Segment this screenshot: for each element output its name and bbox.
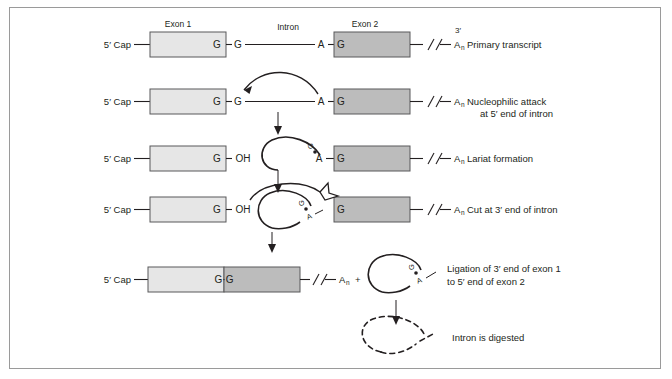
lariat-g-row3: G (306, 143, 315, 149)
step-label-cut-at-three-prime: Cut at 3′ end of intron (467, 204, 558, 215)
released-branch-point-dot (414, 271, 418, 275)
cap-label-row5: 5′ Cap (104, 274, 131, 285)
exon1-g-row2: G (213, 96, 221, 107)
cap-label-row1: 5′ Cap (104, 39, 131, 50)
ligation-arrow-curve-row4 (250, 184, 320, 200)
break-mark-a-row4 (428, 204, 434, 215)
lariat-g-row4: G (297, 200, 306, 206)
branch-a-row4: A (305, 212, 313, 222)
digested-lariat-loop (362, 316, 424, 352)
step-label-ligation-line2: to 5′ end of exon 2 (447, 276, 525, 287)
row-lariat-formation: 5′ Cap G OH G A G A n Lariat formation (104, 137, 533, 193)
progress-arrow-head-1 (274, 126, 282, 135)
product-bases: G·G (215, 274, 234, 285)
step-label-lariat-formation: Lariat formation (467, 153, 533, 164)
polya-row3: A (454, 153, 461, 164)
row-intron-digested: Intron is digested (362, 316, 524, 353)
ligation-arrow-head-row4 (320, 183, 338, 200)
polya-sub-row2: n (461, 101, 465, 108)
exon2-g-row3: G (337, 153, 345, 164)
row-primary-transcript: 5′ Cap Exon 1 G G Intron A Exon 2 G 3′ A… (104, 19, 542, 57)
released-lariat-cut-end (426, 272, 436, 278)
branch-a-row3: A (316, 153, 323, 164)
exon2-box-row1 (334, 32, 410, 57)
exon2-g-row2: G (337, 96, 345, 107)
progress-arrow-head-3 (268, 244, 276, 253)
released-lariat-tail (382, 286, 410, 293)
polya-row2: A (454, 96, 461, 107)
digested-lariat-tail (381, 344, 416, 354)
cap-label-row2: 5′ Cap (104, 96, 131, 107)
polya-row4: A (454, 204, 461, 215)
lariat-loop-row3 (262, 137, 320, 170)
break-mark-a-row3 (428, 153, 434, 164)
attack-arrow-head-row2 (244, 86, 252, 94)
step-label-intron-digested: Intron is digested (452, 332, 524, 343)
exon2-box-row2 (334, 89, 410, 114)
lariat-cut-end-row4 (315, 210, 323, 214)
plus-sign: + (355, 274, 361, 285)
row-nucleophilic-attack: 5′ Cap G G A G A n Nucleophilic attack a… (104, 72, 553, 135)
cap-label-row4: 5′ Cap (104, 204, 131, 215)
intron-label: Intron (277, 22, 299, 32)
branch-a-row1: A (318, 39, 325, 50)
released-lariat-loop (368, 255, 421, 292)
digested-lariat-end (420, 333, 435, 341)
step-label-ligation: Ligation of 3′ end of exon 1 (447, 263, 561, 274)
break-mark-a-row5 (313, 274, 319, 285)
exon1-oh-row3: OH (236, 153, 251, 164)
polya-sub-row3: n (461, 158, 465, 165)
attack-arrow-curve-row2 (244, 72, 318, 94)
polya-row1: A (454, 39, 461, 50)
exon1-g-row3: G (213, 153, 221, 164)
intron-g-row2: G (234, 96, 242, 107)
exon1-g-row4: G (213, 204, 221, 215)
step-label-primary-transcript: Primary transcript (467, 39, 542, 50)
released-branch-a: A (415, 276, 423, 286)
step-label-nucleophilic-attack: Nucleophilic attack (467, 96, 546, 107)
lariat-tail-row4 (272, 222, 300, 229)
polya-sub-row5: n (346, 279, 350, 286)
row-cut-at-three-prime: 5′ Cap G OH G A G A n Cut at 3′ end of i… (104, 183, 558, 253)
released-lariat-g: G (407, 264, 416, 270)
polya-row5: A (339, 274, 346, 285)
splicing-diagram: 5′ Cap Exon 1 G G Intron A Exon 2 G 3′ A… (0, 0, 672, 379)
exon2-g-row1: G (337, 39, 345, 50)
break-mark-a-row2 (428, 96, 434, 107)
exon1-oh-row4: OH (236, 204, 251, 215)
exon2-g-row4: G (337, 204, 345, 215)
branch-point-dot-row4 (304, 207, 308, 211)
intron-g-row1: G (234, 39, 242, 50)
exon2-box-row3 (334, 146, 410, 171)
three-prime-label: 3′ (455, 26, 461, 35)
lariat-loop-row4 (258, 191, 311, 228)
polya-sub-row4: n (461, 209, 465, 216)
row-spliced-product: 5′ Cap G·G A n + G A Ligation of 3′ end … (104, 255, 561, 325)
exon1-label: Exon 1 (165, 19, 192, 29)
polya-sub-row1: n (461, 44, 465, 51)
exon1-g-row1: G (213, 39, 221, 50)
product-exon1-box (148, 267, 224, 292)
exon2-box-row4 (334, 197, 410, 222)
step-label-nucleophilic-attack-line2: at 5′ end of intron (480, 108, 553, 119)
branch-a-row2: A (318, 96, 325, 107)
break-mark-a-row1 (428, 39, 434, 50)
product-exon2-box (224, 267, 300, 292)
exon2-label: Exon 2 (352, 19, 379, 29)
figure-container: 5′ Cap Exon 1 G G Intron A Exon 2 G 3′ A… (0, 0, 672, 379)
cap-label-row3: 5′ Cap (104, 153, 131, 164)
